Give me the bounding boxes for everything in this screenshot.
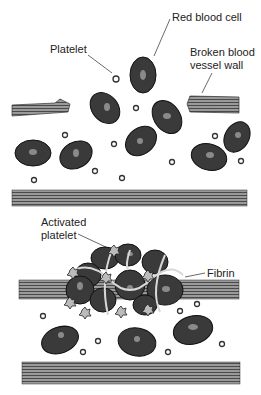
broken-vessel-wall-right [187, 96, 239, 113]
vessel-wall-top-lower [12, 190, 247, 206]
illustration [0, 0, 261, 395]
red-blood-cells-top [15, 57, 255, 175]
red-blood-cells-bottom [38, 311, 216, 359]
broken-vessel-wall-left [12, 99, 70, 116]
vessel-wall-bottom-lower [22, 362, 240, 384]
clot-cells [66, 244, 183, 315]
